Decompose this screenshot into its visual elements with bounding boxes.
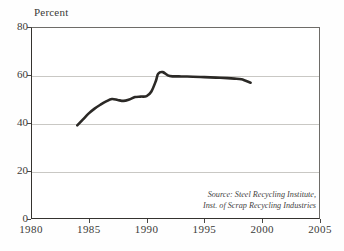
x-tick-label-2000: 2000	[240, 223, 284, 235]
y-tick-label-40: 40	[2, 116, 28, 128]
y-tick-label-20: 20	[2, 164, 28, 176]
source-line-1: Source: Steel Recycling Institute,	[186, 190, 316, 201]
x-tick-label-1995: 1995	[182, 223, 226, 235]
x-tick-mark-1985	[89, 219, 90, 223]
x-tick-mark-1990	[147, 219, 148, 223]
y-tick-label-60: 60	[2, 68, 28, 80]
x-tick-mark-2000	[262, 219, 263, 223]
series-path-0	[77, 72, 250, 125]
y-tick-mark-0	[27, 219, 31, 220]
x-tick-label-1985: 1985	[67, 223, 111, 235]
x-tick-label-1980: 1980	[9, 223, 53, 235]
x-tick-mark-1995	[204, 219, 205, 223]
x-tick-mark-2005	[320, 219, 321, 223]
x-tick-label-2005: 2005	[298, 223, 342, 235]
source-line-2: Inst. of Scrap Recycling Industries	[186, 201, 316, 212]
chart-container: Percent 020406080 1980198519901995200020…	[0, 0, 344, 251]
y-tick-label-80: 80	[2, 20, 28, 32]
source-attribution: Source: Steel Recycling Institute, Inst.…	[186, 190, 316, 211]
x-tick-label-1990: 1990	[125, 223, 169, 235]
y-axis-unit-label: Percent	[34, 6, 68, 18]
